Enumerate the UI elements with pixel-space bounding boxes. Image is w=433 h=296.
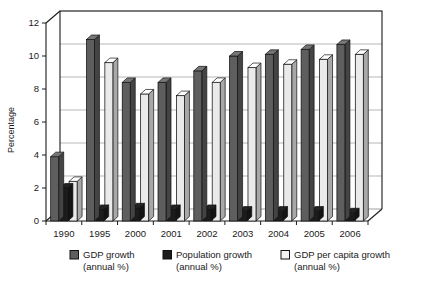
- y-tick-label: 10: [28, 50, 39, 61]
- bar: [212, 78, 225, 221]
- y-tick-label: 4: [34, 149, 39, 160]
- legend-label: GDP growth: [83, 249, 135, 260]
- bar: [265, 50, 278, 221]
- y-tick-label: 6: [34, 116, 39, 127]
- bar: [355, 50, 368, 221]
- x-tick-label: 2000: [125, 228, 146, 239]
- bar: [176, 91, 189, 221]
- bar: [320, 55, 333, 221]
- x-tick-label: 2005: [304, 228, 325, 239]
- legend-sublabel: (annual %): [176, 261, 222, 272]
- legend-swatch: [281, 251, 290, 260]
- chart-container: 024681012 199019952000200120022003200420…: [0, 0, 433, 296]
- legend-swatch: [70, 251, 79, 260]
- x-tick-label: 2001: [161, 228, 182, 239]
- y-tick-label: 12: [28, 17, 39, 28]
- legend-swatch: [163, 251, 172, 260]
- bar: [158, 78, 171, 221]
- bar-chart: 024681012 199019952000200120022003200420…: [0, 0, 433, 296]
- bar: [248, 63, 261, 221]
- y-tick-label: 2: [34, 182, 39, 193]
- x-tick-label: 1990: [53, 228, 74, 239]
- x-tick-label: 2006: [340, 228, 361, 239]
- bar: [194, 66, 207, 221]
- bar: [122, 78, 135, 221]
- legend-label: Population growth: [176, 249, 252, 260]
- legend-label: GDP per capita growth: [294, 249, 390, 260]
- legend-sublabel: (annual %): [83, 261, 129, 272]
- x-tick-label: 2004: [268, 228, 289, 239]
- bar: [301, 45, 314, 221]
- x-tick-label: 1995: [89, 228, 110, 239]
- bar: [337, 40, 350, 221]
- y-axis-title: Percentage: [6, 107, 16, 153]
- bar: [284, 60, 297, 221]
- bar: [86, 35, 99, 221]
- x-tick-label: 2003: [232, 228, 253, 239]
- bar: [105, 58, 118, 221]
- legend-sublabel: (annual %): [294, 261, 340, 272]
- y-axis: 024681012: [28, 17, 46, 226]
- bar: [51, 152, 64, 221]
- chart-legend: GDP growth(annual %)Population growth(an…: [70, 249, 390, 272]
- x-tick-label: 2002: [196, 228, 217, 239]
- y-tick-label: 0: [34, 215, 39, 226]
- bar: [141, 89, 154, 221]
- bar: [230, 52, 243, 222]
- y-tick-label: 8: [34, 83, 39, 94]
- x-axis: 199019952000200120022003200420052006: [46, 221, 368, 239]
